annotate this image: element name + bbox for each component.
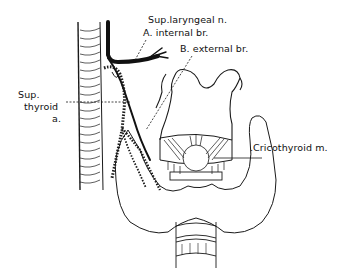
label-internal-branch: A. internal br. <box>143 27 208 38</box>
label-sup-thyroid-2: thyroid <box>24 101 58 112</box>
cricothyroid-muscle <box>160 134 232 180</box>
label-external-branch: B. external br. <box>180 43 248 54</box>
label-sup-laryngeal-nerve: Sup.laryngeal n. <box>148 14 227 25</box>
carotid-artery <box>78 22 103 190</box>
label-sup-thyroid-3: a. <box>52 113 61 124</box>
label-sup-thyroid-1: Sup. <box>18 89 40 100</box>
label-cricothyroid-muscle: .Cricothyroid m. <box>250 142 328 153</box>
trachea <box>176 222 216 268</box>
thyroid-cartilage <box>156 70 242 140</box>
superior-thyroid-artery <box>104 67 160 190</box>
anatomy-diagram <box>0 0 356 268</box>
superior-laryngeal-nerve <box>108 22 168 160</box>
